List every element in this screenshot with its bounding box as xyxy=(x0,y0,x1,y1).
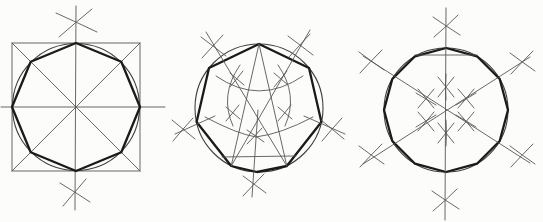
chord-apex-to-lower-left xyxy=(231,44,259,166)
circumscribed-circle xyxy=(195,44,323,172)
ring-mark-upper-left-c xyxy=(416,93,436,105)
diagonal-axis-1 xyxy=(363,56,530,163)
ring-mark-upper-right-c xyxy=(456,93,476,105)
polygon-constructions-drawing xyxy=(0,0,543,222)
compass-cross-left-a xyxy=(172,120,195,139)
compass-cross-upper-right-b xyxy=(289,34,310,57)
diagonal-axis-2 xyxy=(363,57,530,164)
ring-mark-top-c xyxy=(446,74,447,100)
compass-cross-bottom-a xyxy=(243,176,266,193)
heptagon-outline xyxy=(197,44,322,172)
compass-cross-lower-left-b xyxy=(360,144,382,167)
compass-cross-upper-left-b xyxy=(360,50,382,73)
tick-cross-2b xyxy=(274,71,287,87)
vertical-drop-line xyxy=(252,110,258,197)
compass-cross-lower-right-b xyxy=(511,144,533,167)
compass-cross-right-a xyxy=(321,120,344,139)
heptagon-construction xyxy=(172,30,345,197)
compass-cross-upper-right-a xyxy=(288,36,313,55)
compass-cross-right-b xyxy=(322,118,342,141)
ring-mark-bottom-c xyxy=(446,120,447,146)
interior-arc-lower-right xyxy=(256,117,313,137)
octagon-in-square-construction xyxy=(1,6,165,210)
compass-cross-upper-left-a xyxy=(201,37,226,56)
compass-cross-left-b xyxy=(173,118,193,141)
dodecagon-construction xyxy=(359,8,535,220)
compass-cross-upper-right-b xyxy=(511,51,533,74)
chord-apex-to-lower-right xyxy=(259,44,287,166)
ring-mark-lower-right-c xyxy=(456,115,476,127)
drawing-svg xyxy=(0,0,543,222)
vertical-axis xyxy=(445,8,446,220)
vertical-centerline xyxy=(75,6,76,210)
ring-mark-lower-left-c xyxy=(416,115,436,127)
compass-arc-cross-bottom-b xyxy=(63,179,86,206)
